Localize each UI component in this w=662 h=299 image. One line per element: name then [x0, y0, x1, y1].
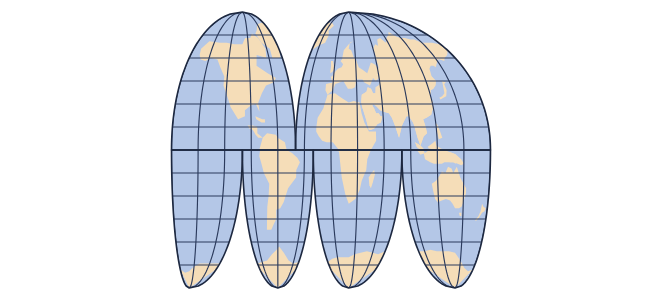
world-map-canvas — [0, 0, 662, 299]
world-map-figure — [0, 0, 662, 299]
